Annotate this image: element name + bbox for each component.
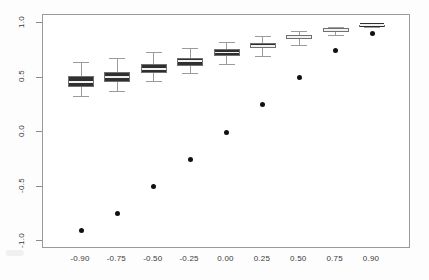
- box-band-lower: [69, 83, 93, 87]
- whisker-cap-lower: [328, 35, 344, 36]
- median-line: [69, 81, 93, 83]
- y-tick-label: -1.0: [8, 229, 34, 251]
- median-line: [105, 77, 129, 79]
- whisker-cap-upper: [182, 48, 198, 49]
- box-band-lower: [142, 69, 166, 72]
- y-tick-label-text: 0.5: [17, 70, 26, 82]
- whisker-upper: [117, 58, 118, 72]
- boxplot-group: [68, 15, 94, 249]
- y-tick-label: 0.5: [8, 66, 34, 88]
- whisker-cap-upper: [291, 31, 307, 32]
- whisker-upper: [153, 52, 154, 64]
- whisker-upper: [226, 42, 227, 50]
- data-point: [224, 130, 229, 135]
- median-line: [324, 29, 348, 31]
- whisker-cap-lower: [219, 64, 235, 65]
- y-tick-label: 1.0: [8, 11, 34, 33]
- whisker-lower: [153, 73, 154, 81]
- y-tick-label: -0.5: [8, 175, 34, 197]
- box-band-lower: [178, 62, 202, 65]
- whisker-upper: [190, 48, 191, 58]
- whisker-cap-lower: [146, 81, 162, 82]
- median-line: [287, 36, 311, 38]
- median-line: [178, 60, 202, 62]
- median-line: [215, 52, 239, 54]
- whisker-cap-lower: [255, 56, 271, 57]
- median-line: [251, 45, 275, 47]
- data-point: [188, 157, 193, 162]
- median-line: [360, 24, 384, 26]
- whisker-lower: [262, 48, 263, 56]
- whisker-lower: [117, 82, 118, 91]
- whisker-lower: [190, 66, 191, 74]
- boxplot-group: [286, 15, 312, 249]
- whisker-cap-lower: [73, 96, 89, 97]
- data-point: [297, 75, 302, 80]
- whisker-cap-upper: [73, 62, 89, 63]
- x-tick-label: 0.90: [349, 254, 393, 263]
- y-tick-label-text: 1.0: [17, 16, 26, 28]
- y-tick-label-text: -1.0: [17, 233, 26, 248]
- data-point: [333, 48, 338, 53]
- whisker-cap-upper: [109, 58, 125, 59]
- plot-area: [42, 14, 410, 248]
- whisker-cap-upper: [255, 36, 271, 37]
- boxplot-group: [177, 15, 203, 249]
- whisker-cap-lower: [109, 91, 125, 92]
- data-point: [370, 31, 375, 36]
- y-tick-label-text: 0.0: [17, 125, 26, 137]
- whisker-lower: [226, 56, 227, 65]
- whisker-cap-lower: [182, 73, 198, 74]
- boxplot-group: [141, 15, 167, 249]
- data-point: [79, 228, 84, 233]
- median-line: [142, 68, 166, 70]
- y-tick-label: 0.0: [8, 120, 34, 142]
- chart-canvas: 1.00.50.0-0.5-1.0 -0.90-0.75-0.50-0.250.…: [0, 0, 429, 280]
- boxplot-group: [359, 15, 385, 249]
- whisker-lower: [81, 87, 82, 96]
- whisker-cap-upper: [146, 52, 162, 53]
- whisker-cap-lower: [291, 45, 307, 46]
- whisker-cap-upper: [219, 42, 235, 43]
- boxplot-group: [250, 15, 276, 249]
- whisker-upper: [81, 62, 82, 76]
- y-tick-label-text: -0.5: [17, 178, 26, 193]
